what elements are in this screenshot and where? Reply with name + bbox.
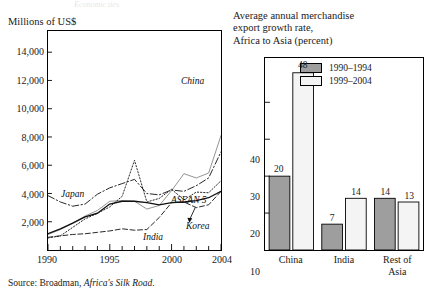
bar-y-tick-label: 40 [250, 153, 260, 164]
bar-series-group [269, 73, 419, 250]
legend-swatch [300, 76, 322, 86]
series-label-india: India [143, 232, 163, 242]
bar-chart-panel: Average annual merchandise export growth… [228, 0, 434, 305]
series-label-korea: Korea [186, 221, 209, 231]
y-tick-label: 8,000 [22, 131, 45, 142]
y-tick-label: 10,000 [17, 103, 45, 114]
x-tick-label: 1995 [100, 254, 120, 265]
bar-category-label: China [279, 254, 303, 266]
line-chart-panel: Millions of US$ 2,0004,0006,0008,00010,0… [0, 0, 228, 305]
y-tick-label: 4,000 [22, 188, 45, 199]
bar-category-label-line: Asia [383, 266, 412, 278]
x-tick-label: 2000 [162, 254, 182, 265]
bar-category-label-line: India [334, 254, 355, 266]
source-note: Source: Broadman, Africa's Silk Road. [8, 278, 155, 288]
bar-category-label: Rest ofAsia [383, 254, 412, 277]
bar-chart-title-line-1: Average annual merchandise [233, 10, 429, 22]
left-chart-y-axis-labels: 2,0004,0006,0008,00010,00012,00014,000 [0, 30, 44, 251]
y-tick-label: 6,000 [22, 160, 45, 171]
bar-y-tick-label: 10 [250, 265, 260, 276]
y-tick-label: 2,000 [22, 217, 45, 228]
bar-category-label-line: China [279, 254, 303, 266]
bar-value-label: 7 [330, 213, 335, 223]
bar-value-label: 14 [381, 187, 391, 197]
series-label-china: China [181, 76, 204, 86]
bar-chart-legend: 1990–19941999–2004 [300, 62, 420, 88]
source-suffix: . [152, 278, 154, 288]
figure-root: Economic ties Millions of US$ 2,0004,000… [0, 0, 434, 305]
bar-y-tick-label: 30 [250, 191, 260, 202]
bar-chart-title: Average annual merchandise export growth… [233, 10, 429, 47]
bar-value-label: 20 [274, 164, 284, 174]
legend-label: 1990–1994 [329, 63, 372, 73]
bar-value-label: 48 [298, 60, 308, 70]
legend-label: 1999–2004 [329, 76, 372, 86]
source-prefix: Source: Broadman, [8, 278, 84, 288]
bar-category-label-line: Rest of [383, 254, 412, 266]
y-tick-label: 14,000 [17, 46, 45, 57]
bar-chart-title-line-2: export growth rate, [233, 22, 429, 34]
y-tick-label: 12,000 [17, 74, 45, 85]
source-title: Africa's Silk Road [84, 278, 153, 288]
line-chart-svg [48, 31, 221, 250]
bar-chart-y-axis-labels: 10203040 [228, 57, 260, 251]
legend-item: 1990–1994 [300, 62, 420, 73]
bar-value-label: 13 [405, 191, 415, 201]
bar-y-tick-label: 20 [250, 228, 260, 239]
series-label-asean: ASEAN 5 [171, 195, 207, 205]
bar-chart-title-line-3: Africa to Asia (percent) [233, 35, 429, 47]
legend-item: 1999–2004 [300, 75, 420, 86]
series-label-japan: Japan [61, 189, 84, 199]
bar-value-label: 14 [351, 187, 361, 197]
x-tick-label: 1990 [37, 254, 57, 265]
bar-category-label: India [334, 254, 355, 266]
left-chart-units-label: Millions of US$ [8, 16, 76, 27]
left-chart-plot-area [47, 30, 222, 251]
